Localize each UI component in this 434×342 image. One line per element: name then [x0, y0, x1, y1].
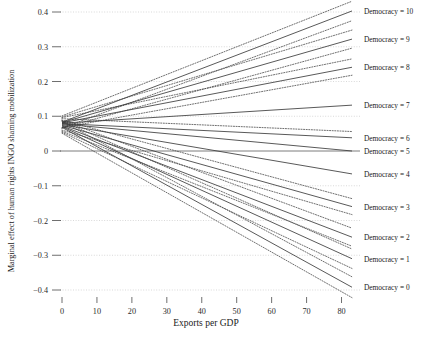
- x-tick-label: 30: [163, 307, 171, 316]
- y-tick-label: −0.1: [33, 182, 48, 191]
- series-line: [62, 126, 352, 237]
- y-tick-label: 0.3: [38, 43, 48, 52]
- legend-label: Democracy = 10: [364, 7, 414, 16]
- x-tick-label: 40: [198, 307, 206, 316]
- legend-label: Democracy = 8: [364, 63, 410, 72]
- legend-label: Democracy = 9: [364, 35, 410, 44]
- confidence-interval-line: [62, 75, 352, 127]
- confidence-interval-line: [62, 121, 352, 276]
- confidence-interval-line: [62, 59, 352, 118]
- series-line: [62, 127, 352, 259]
- marginal-effects-chart: 01020304050607080 0.40.30.20.10−0.1−0.2−…: [0, 0, 434, 342]
- series-line: [62, 125, 352, 174]
- legend-label: Democracy = 5: [364, 147, 410, 156]
- legend-label: Democracy = 7: [364, 101, 410, 110]
- legend-label: Democracy = 0: [364, 283, 410, 292]
- legend-label: Democracy = 4: [364, 170, 410, 179]
- confidence-interval-line: [62, 1, 352, 116]
- y-axis-ticks: 0.40.30.20.10−0.1−0.2−0.3−0.4: [33, 8, 61, 295]
- x-axis-ticks: 01020304050607080: [60, 297, 346, 316]
- y-tick-label: 0: [44, 147, 48, 156]
- x-tick-label: 60: [268, 307, 276, 316]
- confidence-interval-line: [62, 121, 352, 249]
- x-tick-label: 0: [60, 307, 64, 316]
- legend-label: Democracy = 1: [364, 255, 410, 264]
- fit-lines-group: [62, 11, 352, 287]
- confidence-interval-line: [62, 120, 352, 228]
- confidence-interval-line: [62, 132, 352, 268]
- legend-group: Democracy = 10Democracy = 9Democracy = 8…: [364, 7, 414, 292]
- x-axis-label: Exports per GDP: [173, 318, 238, 328]
- series-line: [62, 11, 352, 122]
- confidence-interval-line: [62, 21, 352, 128]
- x-tick-label: 80: [337, 307, 345, 316]
- series-line: [62, 39, 352, 122]
- confidence-interval-line: [62, 133, 352, 297]
- y-tick-label: −0.2: [33, 217, 48, 226]
- y-tick-label: 0.2: [38, 78, 48, 87]
- x-tick-label: 50: [233, 307, 241, 316]
- legend-label: Democracy = 6: [364, 134, 410, 143]
- x-tick-label: 70: [302, 307, 310, 316]
- x-tick-label: 10: [93, 307, 101, 316]
- chart-svg: 01020304050607080 0.40.30.20.10−0.1−0.2−…: [0, 0, 434, 342]
- series-line: [62, 124, 352, 138]
- confidence-interval-line: [62, 30, 352, 117]
- y-tick-label: −0.4: [33, 286, 48, 295]
- legend-label: Democracy = 2: [364, 233, 410, 242]
- confidence-interval-line: [62, 131, 352, 246]
- y-tick-label: −0.3: [33, 251, 48, 260]
- x-tick-label: 20: [128, 307, 136, 316]
- y-tick-label: 0.1: [38, 112, 48, 121]
- legend-label: Democracy = 3: [364, 203, 410, 212]
- y-axis-label: Marginal effect of human rights INGO sha…: [7, 69, 16, 273]
- y-tick-label: 0.4: [38, 8, 48, 17]
